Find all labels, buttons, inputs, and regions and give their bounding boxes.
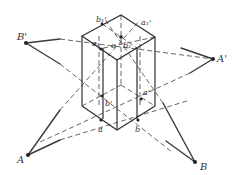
point-b [136,118,139,121]
solid-rays [26,39,213,162]
point-b-big [193,160,197,164]
ray-b-lower [166,141,195,162]
point-a [99,118,102,121]
label-bprime: B' [16,31,27,42]
label-a1: a₁ [92,39,100,48]
label-a-big: A [16,154,24,165]
label-b1: b₁ [123,41,131,50]
ray-bprime-lower [26,43,60,64]
point-o [119,35,123,39]
label-b1prime: b₁' [96,15,107,24]
point-a-big [26,153,30,157]
line-a-aprime [60,100,190,140]
label-a: a [98,125,103,134]
ray-aprime-lower [190,59,213,73]
label-bprime-small: b' [105,99,112,108]
line-aprime-a [38,73,190,143]
line-b-top [104,18,163,103]
label-b-big: B [199,161,207,172]
dashed-construction-lines [38,15,213,152]
geometry-diagram: B' A' A B b₁' a₁' a₁ o b₁ b' a' a b [0,0,239,175]
point-bprime-small [101,95,104,98]
label-aprime: A' [216,53,227,64]
point-aprime [211,57,215,61]
ray-bprime-upper [26,39,60,43]
label-o: o [111,41,116,50]
point-aprime-small [139,97,142,100]
label-b: b [135,125,140,134]
label-aprime-small: a' [143,88,150,97]
label-a1prime: a₁' [141,18,151,27]
ray-b-upper [163,103,195,162]
